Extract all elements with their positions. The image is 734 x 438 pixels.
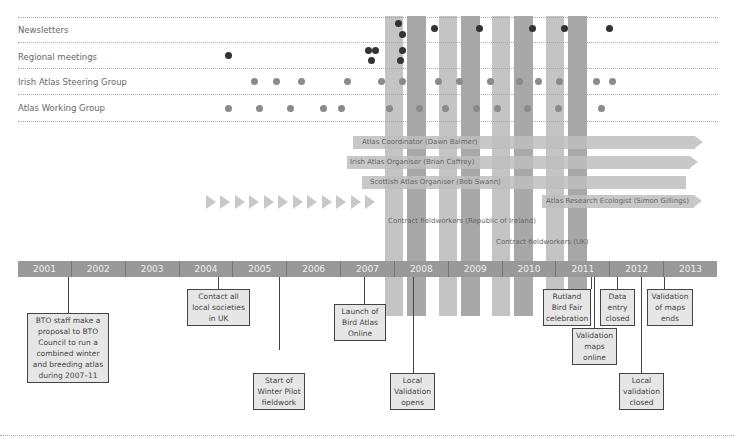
event-winter-pilot: Start of Winter Pilot fieldwork [253, 373, 305, 410]
steering-group-dot [516, 78, 523, 85]
steering-group-dot [344, 78, 351, 85]
year-axis: 2001 2002 2003 2004 2005 2006 2007 2008 … [18, 261, 717, 277]
year-2007: 2007 [341, 261, 395, 277]
role-scottish-atlas-organiser: Scottish Atlas Organiser (Bob Swann) [362, 176, 686, 189]
working-group-dot [555, 105, 562, 112]
working-group-dot [442, 105, 449, 112]
working-group-dot [473, 105, 480, 112]
steering-group-dot [399, 78, 406, 85]
steering-group-dot [273, 78, 280, 85]
working-group-dot [598, 105, 605, 112]
steering-group-dot [251, 78, 258, 85]
year-2004: 2004 [180, 261, 234, 277]
role-contract-fieldworkers-uk: Contract fieldworkers (UK) [490, 236, 570, 249]
year-2003: 2003 [126, 261, 180, 277]
role-irish-atlas-organiser: Irish Atlas Organiser (Brian Caffrey) [347, 156, 690, 169]
newsletter-dot [529, 25, 536, 32]
regional-meeting-dot [365, 47, 372, 54]
newsletter-dot [561, 25, 568, 32]
year-2006: 2006 [287, 261, 341, 277]
event-stem [279, 277, 280, 350]
newsletter-dot [476, 25, 483, 32]
role-atlas-coordinator: Atlas Coordinator (Dawn Balmer) [353, 136, 695, 149]
regional-meeting-dot [397, 57, 404, 64]
event-validation-maps-ends: Validation of maps ends [647, 289, 693, 326]
newsletter-dot [431, 25, 438, 32]
newsletter-dot [606, 25, 613, 32]
newsletter-dot [399, 31, 406, 38]
year-2005: 2005 [233, 261, 287, 277]
steering-group-dot [378, 78, 385, 85]
year-2011: 2011 [556, 261, 610, 277]
row-divider [18, 68, 718, 69]
year-2012: 2012 [610, 261, 664, 277]
event-local-validation-closed: Local validation closed [619, 373, 664, 410]
regional-meeting-dot [225, 52, 232, 59]
steering-group-dot [487, 78, 494, 85]
working-group-dot [416, 105, 423, 112]
event-validation-maps-online: Validation maps online [572, 328, 617, 365]
event-rutland-bird-fair: Rutland Bird Fair celebration [543, 289, 591, 326]
working-group-dot [225, 105, 232, 112]
year-2009: 2009 [449, 261, 503, 277]
role-research-ecologist: Atlas Research Ecologist (Simon Gillings… [542, 195, 694, 208]
row-divider [18, 17, 718, 18]
working-group-dot [320, 105, 327, 112]
event-bto-proposal: BTO staff make a proposal to BTO Council… [27, 313, 109, 383]
steering-group-dot [298, 78, 305, 85]
event-stem [218, 277, 219, 289]
event-stem [68, 277, 69, 313]
steering-group-dot [593, 78, 600, 85]
event-contact-local-societies: Contact all local societies in UK [187, 289, 250, 326]
row-label-irish-steering-group: Irish Atlas Steering Group [18, 77, 127, 87]
row-label-newsletters: Newsletters [18, 25, 68, 35]
year-2002: 2002 [72, 261, 126, 277]
regional-meeting-dot [372, 47, 379, 54]
event-stem [664, 277, 665, 289]
year-2001: 2001 [18, 261, 72, 277]
steering-group-dot [535, 78, 542, 85]
event-stem [591, 277, 592, 289]
event-stem [413, 277, 414, 373]
working-group-dot [256, 105, 263, 112]
bottom-divider [0, 435, 734, 436]
event-data-entry-closed: Data entry closed [600, 289, 635, 326]
event-stem [594, 277, 595, 328]
steering-group-dot [556, 78, 563, 85]
event-stem [364, 277, 365, 304]
event-launch-bird-atlas-online: Launch of Bird Atlas Online [334, 304, 386, 341]
year-2008: 2008 [395, 261, 449, 277]
working-group-dot [524, 105, 531, 112]
event-stem [641, 277, 642, 373]
year-2010: 2010 [503, 261, 557, 277]
steering-group-dot [435, 78, 442, 85]
working-group-dot [338, 105, 345, 112]
regional-meeting-dot [399, 47, 406, 54]
row-label-regional-meetings: Regional meetings [18, 52, 97, 62]
regional-meeting-dot [368, 57, 375, 64]
year-2013: 2013 [664, 261, 717, 277]
row-divider [18, 121, 718, 122]
row-divider [18, 42, 718, 43]
working-group-dot [386, 105, 393, 112]
working-group-dot [494, 105, 501, 112]
role-contract-fieldworkers-roi: Contract fieldworkers (Republic of Irela… [380, 215, 540, 228]
row-divider [18, 94, 718, 95]
newsletter-dot [395, 20, 402, 27]
row-label-atlas-working-group: Atlas Working Group [18, 103, 105, 113]
event-stem [617, 277, 618, 289]
working-group-dot [287, 105, 294, 112]
steering-group-dot [456, 78, 463, 85]
steering-group-dot [609, 78, 616, 85]
event-local-validation-opens: Local Validation opens [390, 373, 435, 410]
